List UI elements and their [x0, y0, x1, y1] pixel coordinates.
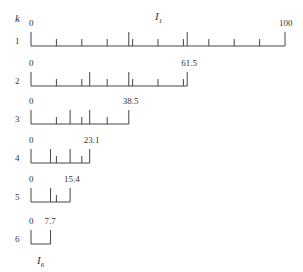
start-label: 0 [29, 96, 34, 106]
end-label: 38.5 [123, 96, 139, 106]
interval-i1-label: I1 [154, 10, 162, 25]
row-k-label: 1 [15, 36, 20, 46]
start-label: 0 [29, 135, 34, 145]
end-label: 100 [279, 18, 293, 28]
end-label: 7.7 [45, 216, 57, 226]
row-k-label: 4 [15, 153, 20, 163]
row-k-label: 5 [15, 192, 20, 202]
row-k-label: 2 [15, 76, 20, 86]
end-label: 23.1 [84, 135, 100, 145]
interval-i6-label: I6 [36, 254, 45, 269]
interval-reduction-diagram: k I1 I6 101002061.53038.54023.15015.4607… [0, 0, 303, 272]
k-axis-label: k [15, 12, 21, 24]
start-label: 0 [29, 18, 34, 28]
start-label: 0 [29, 174, 34, 184]
start-label: 0 [29, 216, 34, 226]
row-k-label: 6 [15, 234, 20, 244]
end-label: 15.4 [64, 174, 80, 184]
start-label: 0 [29, 58, 34, 68]
row-k-label: 3 [15, 114, 20, 124]
end-label: 61.5 [181, 58, 197, 68]
